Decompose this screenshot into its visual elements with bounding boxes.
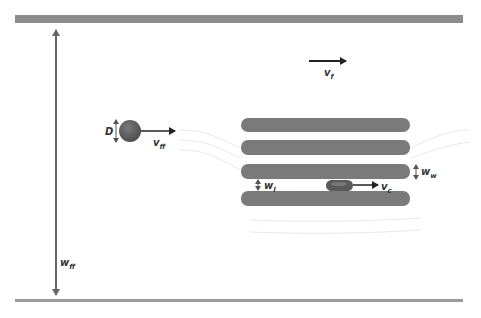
channel-width-label: wff: [60, 257, 76, 271]
bar-2: [241, 140, 410, 155]
free-flow-velocity-label: vff: [153, 137, 167, 151]
cell-highlight: [331, 182, 347, 186]
channel-diagram: wff vf D vff ww wl vc: [0, 0, 481, 318]
bar-1: [241, 118, 410, 132]
wall-width-label: ww: [421, 166, 437, 180]
bottom-wall: [15, 299, 463, 302]
diameter-label: D: [105, 126, 113, 137]
fluid-velocity-label: vf: [324, 67, 335, 81]
free-particle: [119, 120, 141, 142]
top-wall: [15, 15, 463, 23]
bar-3: [241, 164, 410, 179]
bar-4: [241, 191, 410, 206]
